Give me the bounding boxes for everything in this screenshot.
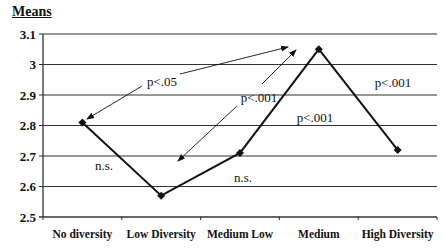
line-chart: 3.132.92.82.72.62.5 No diversityLow Dive… <box>0 0 444 252</box>
double-arrow-p001 <box>178 106 237 161</box>
double-arrow-p05 <box>87 86 142 119</box>
x-tick-label: No diversity <box>53 228 113 241</box>
y-tick-label: 2.6 <box>20 179 37 194</box>
annotation-ns-1: n.s. <box>95 158 113 173</box>
y-tick-label: 3 <box>30 57 37 72</box>
x-tick-label: Medium <box>298 228 340 240</box>
annotations: p<.05p<.001n.s.n.s.p<.001p<.001 <box>87 47 411 185</box>
double-arrow-p05 <box>180 47 288 74</box>
x-tick-label: Low Diversity <box>127 228 197 241</box>
annotation-p05: p<.05 <box>147 74 177 89</box>
x-axis: No diversityLow DiversityMedium LowMediu… <box>43 217 437 241</box>
y-tick-label: 2.8 <box>20 118 37 133</box>
y-tick-label: 2.7 <box>20 149 37 164</box>
y-tick-label: 2.9 <box>20 88 37 103</box>
x-tick-label: High Diversity <box>362 228 434 241</box>
annotation-p001: p<.001 <box>241 90 278 105</box>
annotation-p001-seg: p<.001 <box>297 110 334 125</box>
x-tick-label: Medium Low <box>207 228 274 240</box>
annotation-ns-2: n.s. <box>234 170 252 185</box>
y-tick-label: 3.1 <box>20 27 36 42</box>
double-arrow-p001 <box>262 50 296 84</box>
annotation-p001-seg2: p<.001 <box>375 75 412 90</box>
y-tick-label: 2.5 <box>20 210 37 225</box>
